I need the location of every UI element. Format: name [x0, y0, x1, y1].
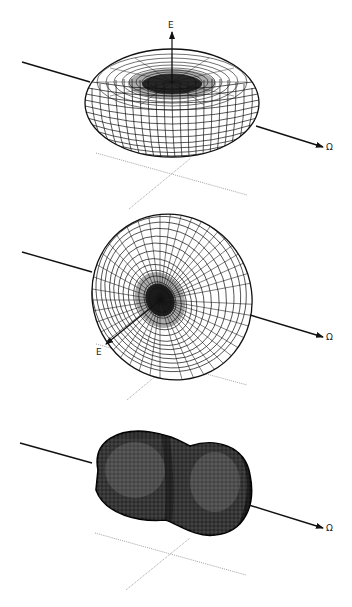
- peanut-surface: [90, 428, 260, 540]
- rotation-axis-arrow: [256, 126, 323, 147]
- diagram-canvas: [0, 0, 352, 607]
- ellipsoid-surface: [63, 185, 281, 409]
- axis-label-omega: Ω: [326, 143, 333, 152]
- panel-1: [22, 32, 323, 209]
- rotation-axis: [22, 252, 92, 272]
- rotation-axis-arrow: [249, 505, 323, 528]
- panel-3: [20, 428, 323, 590]
- ground-line: [95, 533, 246, 575]
- rotation-axis-arrow: [250, 315, 323, 337]
- figure: E Ω E Ω Ω: [0, 0, 352, 607]
- panel-2: [22, 185, 323, 409]
- ground-line: [129, 158, 191, 209]
- rotation-axis: [20, 443, 92, 463]
- ground-line: [96, 153, 247, 195]
- rotation-axis: [22, 62, 90, 82]
- axis-label-omega: Ω: [326, 333, 333, 342]
- axis-label-omega: Ω: [326, 524, 333, 533]
- field-label-e: E: [96, 348, 102, 357]
- ground-line: [126, 538, 190, 590]
- field-label-e: E: [168, 21, 174, 30]
